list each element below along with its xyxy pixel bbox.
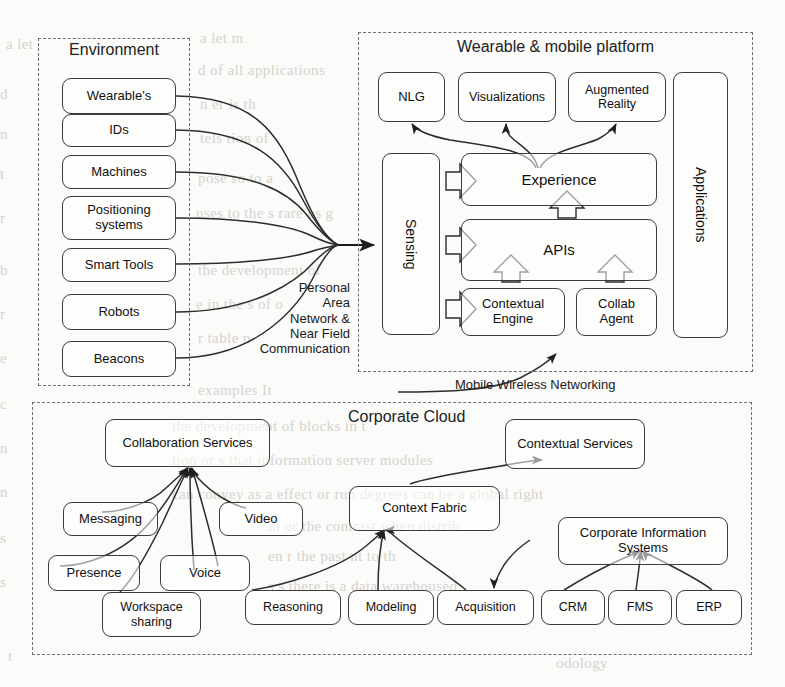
ghost-text: pose so to a <box>198 170 273 187</box>
ghost-text: r <box>0 306 5 323</box>
region-environment-title: Environment <box>38 41 190 59</box>
ghost-text: n <box>0 484 8 501</box>
node-apis[interactable]: APIs <box>461 219 657 281</box>
node-applications[interactable]: Applications <box>673 72 728 338</box>
node-robots[interactable]: Robots <box>62 294 176 330</box>
ghost-text: r <box>0 210 5 227</box>
node-context-fabric[interactable]: Context Fabric <box>349 486 500 531</box>
ghost-text: r table n <box>198 330 251 347</box>
node-messaging[interactable]: Messaging <box>63 502 158 536</box>
ghost-text: s <box>0 574 6 591</box>
ghost-text: uses to the s rare us g <box>196 205 334 222</box>
ghost-text: examples It <box>198 382 272 399</box>
ghost-text: e <box>0 350 7 367</box>
node-contextual-services[interactable]: Contextual Services <box>505 419 645 469</box>
node-workspace-sharing[interactable]: Workspace sharing <box>102 592 201 637</box>
node-video[interactable]: Video <box>219 502 303 536</box>
node-positioning-systems[interactable]: Positioning systems <box>62 196 176 240</box>
ghost-text: t <box>0 166 5 183</box>
ghost-text: a let m <box>200 30 244 47</box>
node-collaboration-services[interactable]: Collaboration Services <box>105 419 270 467</box>
node-smart-tools[interactable]: Smart Tools <box>62 248 176 282</box>
node-fms[interactable]: FMS <box>608 590 672 625</box>
node-collab-agent[interactable]: Collab Agent <box>576 288 657 336</box>
ghost-text: d <box>0 86 8 103</box>
ghost-text: s <box>0 530 6 547</box>
region-platform-title: Wearable & mobile platform <box>358 38 753 56</box>
node-presence[interactable]: Presence <box>48 555 140 591</box>
ghost-text: tels tion of <box>200 130 269 147</box>
ghost-text: odology <box>556 655 608 672</box>
node-reasoning[interactable]: Reasoning <box>245 590 341 625</box>
node-modeling[interactable]: Modeling <box>348 590 434 625</box>
node-voice[interactable]: Voice <box>160 555 250 591</box>
node-beacons[interactable]: Beacons <box>62 341 176 377</box>
node-corporate-information-systems[interactable]: Corporate Information Systems <box>558 517 728 565</box>
connector-label-pan-nfc: Personal Area Network & Near Field Commu… <box>250 280 350 357</box>
node-ids[interactable]: IDs <box>62 114 176 147</box>
node-wearables[interactable]: Wearable's <box>62 78 176 114</box>
node-machines[interactable]: Machines <box>62 155 176 189</box>
node-contextual-engine[interactable]: Contextual Engine <box>461 288 565 336</box>
node-experience[interactable]: Experience <box>461 153 657 206</box>
node-crm[interactable]: CRM <box>541 590 605 625</box>
node-nlg[interactable]: NLG <box>378 72 445 122</box>
ghost-text: the development of <box>198 262 321 279</box>
ghost-text: t <box>8 648 13 665</box>
ghost-text: n <box>0 440 8 457</box>
ghost-text: d of all applications <box>198 62 325 79</box>
ghost-text: n <box>0 126 8 143</box>
node-augmented-reality[interactable]: Augmented Reality <box>568 72 666 122</box>
connector-label-mobile-wireless: Mobile Wireless Networking <box>455 377 615 392</box>
ghost-text: c <box>0 396 7 413</box>
ghost-text: n er is th <box>200 96 256 113</box>
node-sensing[interactable]: Sensing <box>382 153 440 335</box>
ghost-text: b <box>0 262 8 279</box>
node-erp[interactable]: ERP <box>676 590 742 625</box>
node-visualizations[interactable]: Visualizations <box>458 72 556 122</box>
diagram-canvas: a let d n t r b r e c n n s s a let m d … <box>0 0 785 687</box>
region-corporate-cloud-title: Corporate Cloud <box>348 408 465 426</box>
ghost-text: a let <box>6 36 33 53</box>
node-acquisition[interactable]: Acquisition <box>437 590 534 625</box>
